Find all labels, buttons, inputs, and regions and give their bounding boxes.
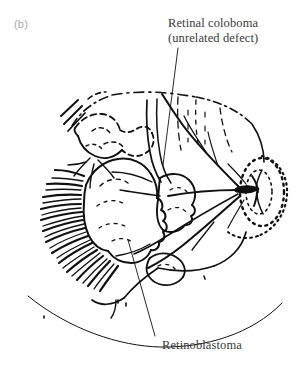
callout-retinoblastoma-line1: Retinoblastoma [162,338,242,352]
callout-coloboma-line2: (unrelated defect) [168,31,258,46]
figure-panel-b: (b) Retinal coloboma (unrelated defect) … [0,0,302,370]
fundus-illustration [0,0,302,370]
callout-retinal-coloboma: Retinal coloboma (unrelated defect) [168,16,258,47]
callout-coloboma-line1: Retinal coloboma [168,16,258,30]
callout-retinoblastoma: Retinoblastoma [162,338,242,353]
panel-label: (b) [14,18,28,30]
